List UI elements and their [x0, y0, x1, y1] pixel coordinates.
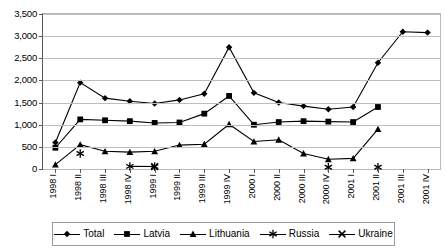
series-line [55, 32, 427, 143]
line-chart: 05001,0001,5002,0002,5003,0003,500 1998 … [0, 0, 445, 250]
data-point-triangle [375, 126, 382, 132]
y-axis-tick-mark [39, 147, 43, 148]
y-axis-tick-label: 2,500 [14, 54, 37, 64]
data-point-diamond [226, 44, 232, 50]
legend-label: Lithuania [209, 229, 250, 239]
x-axis-tick-label: 1998 II [74, 174, 83, 201]
data-point-diamond [201, 91, 207, 97]
x-axis-tick-label: 2000 III [298, 174, 307, 203]
x-axis-tick-label: 2000 IV [322, 174, 331, 204]
y-axis-tick-label: 3,500 [14, 9, 37, 19]
legend-label: Russia [289, 229, 320, 239]
x-axis-tick-label: 2001 II [372, 174, 381, 201]
x-axis-tick-label: 1999 IV [223, 174, 232, 204]
data-point-diamond [325, 106, 331, 112]
y-axis-tick-mark [39, 125, 43, 126]
data-point-asterisk [77, 149, 84, 157]
legend-item-russia[interactable]: Russia [255, 229, 325, 240]
data-point-diamond [300, 103, 306, 109]
y-axis-tick-label: 500 [22, 142, 37, 152]
x-axis-tick-label: 1999 III [198, 174, 207, 203]
data-point-square [77, 117, 83, 123]
x-axis-tick-label: 2000 II [273, 174, 282, 201]
legend-item-latvia[interactable]: Latvia [109, 229, 175, 240]
legend-marker-square-icon [114, 229, 140, 240]
y-axis: 05001,0001,5002,0002,5003,0003,500 [0, 0, 40, 178]
data-point-diamond [424, 29, 430, 35]
x-axis-tick-label: 1998 I [49, 174, 58, 198]
series-lithuania [52, 121, 381, 168]
x-axis-tick-label: 2000 I [248, 174, 257, 198]
plot-wrapper: 05001,0001,5002,0002,5003,0003,500 [0, 0, 445, 178]
x-axis-tick-label: 2001 IV [422, 174, 431, 204]
data-point-diamond [102, 95, 108, 101]
legend-item-total[interactable]: Total [49, 229, 109, 240]
y-axis-tick-label: 0 [32, 164, 37, 174]
data-point-diamond [251, 90, 257, 96]
legend-label: Total [83, 229, 104, 239]
legend-marker-cross-icon [329, 229, 355, 240]
series-total [52, 29, 431, 146]
legend-item-ukraine[interactable]: Ukraine [324, 229, 397, 240]
legend-label: Ukraine [358, 229, 392, 239]
y-axis-tick-label: 1,500 [14, 98, 37, 108]
gridline [43, 58, 440, 59]
data-point-triangle [190, 231, 197, 237]
data-point-square [301, 118, 307, 124]
data-point-asterisk [269, 230, 276, 238]
data-point-square [226, 93, 232, 99]
gridline [43, 36, 440, 37]
data-point-square [201, 111, 207, 117]
y-axis-tick-mark [39, 14, 43, 15]
y-axis-tick-label: 3,000 [14, 31, 37, 41]
x-axis: 1998 I1998 II1998 III1998 IV1999 I1999 I… [42, 171, 441, 219]
legend-marker-diamond-icon [54, 229, 80, 240]
legend-marker-asterisk-icon [260, 229, 286, 240]
chart-legend: TotalLatviaLithuaniaRussiaUkraine [52, 222, 395, 246]
data-point-diamond [64, 231, 70, 237]
data-point-triangle [300, 150, 307, 156]
gridline [43, 14, 440, 15]
x-axis-tick-label: 2001 I [347, 174, 356, 198]
gridline [43, 80, 440, 81]
x-axis-tick-label: 1998 III [99, 174, 108, 203]
data-point-cross [339, 231, 346, 238]
y-axis-tick-mark [39, 103, 43, 104]
data-point-square [102, 117, 108, 123]
legend-item-lithuania[interactable]: Lithuania [175, 229, 255, 240]
data-point-square [375, 104, 381, 110]
legend-marker-triangle-icon [180, 229, 206, 240]
data-point-diamond [350, 104, 356, 110]
x-axis-tick-label: 1999 II [173, 174, 182, 201]
plot-area [42, 13, 441, 170]
data-point-square [325, 119, 331, 125]
x-axis-tick-label: 1998 IV [124, 174, 133, 204]
gridline [43, 147, 440, 148]
y-axis-tick-mark [39, 169, 43, 170]
series-layer [43, 14, 440, 169]
y-axis-tick-mark [39, 80, 43, 81]
y-axis-tick-mark [39, 36, 43, 37]
x-axis-tick-label: 1999 I [149, 174, 158, 198]
data-point-square [125, 231, 131, 237]
legend-label: Latvia [143, 229, 170, 239]
y-axis-tick-label: 1,000 [14, 120, 37, 130]
x-axis-tick-label: 2001 III [397, 174, 406, 203]
y-axis-tick-label: 2,000 [14, 76, 37, 86]
gridline [43, 125, 440, 126]
y-axis-tick-mark [39, 58, 43, 59]
gridline [43, 103, 440, 104]
data-point-square [127, 118, 133, 124]
